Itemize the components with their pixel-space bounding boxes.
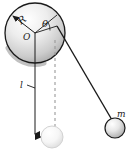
length-label: l	[20, 80, 23, 90]
angle-label: θ	[42, 18, 48, 29]
mass-label: m	[117, 109, 126, 119]
diagram-canvas: R θ O l m	[0, 0, 133, 158]
mass-bob-rest-position	[41, 126, 63, 148]
physics-diagram: R θ O l m	[0, 0, 133, 158]
taut-string	[57, 26, 112, 120]
center-label: O	[23, 32, 31, 42]
length-tick	[27, 85, 35, 88]
mass-bob	[105, 118, 125, 138]
